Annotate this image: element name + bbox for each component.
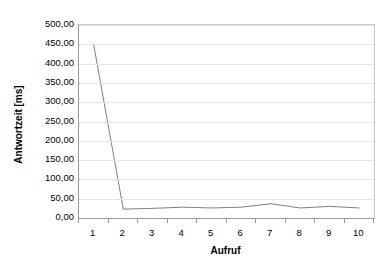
gridline <box>79 64 374 65</box>
gridline <box>79 179 374 180</box>
x-axis-tick-label: 5 <box>196 227 226 239</box>
y-axis-tick-labels: 500,00450,00400,00350,00300,00250,00200,… <box>26 17 74 217</box>
gridline <box>79 102 374 103</box>
x-axis-tick-label: 6 <box>225 227 255 239</box>
y-axis-tick-label: 250,00 <box>26 116 74 126</box>
plot-area <box>78 24 375 219</box>
y-axis-tick-label: 50,00 <box>26 193 74 203</box>
gridline <box>79 122 374 123</box>
gridline <box>79 141 374 142</box>
x-axis-tick <box>314 218 315 223</box>
gridline <box>79 25 374 26</box>
y-axis-tick-label: 300,00 <box>26 96 74 106</box>
y-axis-tick-label: 0,00 <box>26 212 74 222</box>
x-axis-title: Aufruf <box>78 245 373 256</box>
x-axis-tick <box>285 218 286 223</box>
x-axis-tick <box>373 218 374 223</box>
y-axis-title: Antwortzeit [ms] <box>12 17 26 232</box>
y-axis-tick-label: 500,00 <box>26 19 74 29</box>
x-axis-tick-label: 3 <box>137 227 167 239</box>
x-axis-tick <box>226 218 227 223</box>
x-axis-tick-label: 10 <box>343 227 373 239</box>
y-axis-tick-label: 400,00 <box>26 58 74 68</box>
x-axis-tick <box>167 218 168 223</box>
y-axis-tick-label: 450,00 <box>26 38 74 48</box>
x-axis-tick <box>196 218 197 223</box>
x-axis-tick <box>78 218 79 223</box>
x-axis-tick <box>344 218 345 223</box>
y-axis-tick-label: 200,00 <box>26 135 74 145</box>
gridline <box>79 44 374 45</box>
y-axis-tick-label: 350,00 <box>26 77 74 87</box>
x-axis-tick-label: 4 <box>166 227 196 239</box>
line-chart: Antwortzeit [ms] 500,00450,00400,00350,0… <box>0 0 387 275</box>
x-axis-tick-label: 8 <box>284 227 314 239</box>
x-axis-ticks <box>78 218 374 223</box>
y-axis-tick-label: 150,00 <box>26 154 74 164</box>
x-axis-tick-label: 1 <box>78 227 108 239</box>
x-axis-tick <box>137 218 138 223</box>
gridline <box>79 199 374 200</box>
gridline <box>79 83 374 84</box>
x-axis-tick <box>255 218 256 223</box>
x-axis-tick-label: 2 <box>107 227 137 239</box>
x-axis-tick-label: 9 <box>314 227 344 239</box>
x-axis-tick-labels: 12345678910 <box>78 227 373 241</box>
y-axis-tick-label: 100,00 <box>26 173 74 183</box>
x-axis-tick-label: 7 <box>255 227 285 239</box>
gridline <box>79 160 374 161</box>
x-axis-tick <box>108 218 109 223</box>
